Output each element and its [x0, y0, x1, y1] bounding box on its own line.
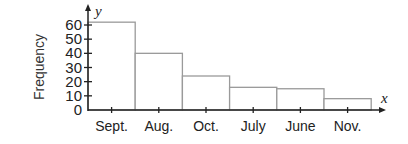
x-tick-label: Nov.	[334, 118, 362, 134]
x-tick-label: Oct.	[193, 118, 219, 134]
x-tick-label: Sept.	[95, 118, 128, 134]
bar-july	[230, 87, 277, 110]
x-tick-label: June	[285, 118, 316, 134]
bar-oct	[182, 76, 229, 110]
y-axis: 0102030405060	[65, 4, 92, 118]
bars-group	[88, 22, 371, 110]
x-axis-variable: x	[380, 90, 388, 106]
bar-sept	[88, 22, 135, 110]
y-axis-variable: y	[93, 3, 102, 19]
bar-aug	[135, 53, 182, 110]
bar-chart: 0102030405060 Sept.Aug.Oct.JulyJuneNov. …	[0, 0, 408, 144]
x-axis: Sept.Aug.Oct.JulyJuneNov.	[88, 107, 386, 134]
x-tick-label: Aug.	[144, 118, 173, 134]
x-tick-label: July	[241, 118, 266, 134]
bar-june	[277, 89, 324, 110]
y-tick-label: 60	[65, 16, 82, 33]
y-axis-title: Frequency	[31, 34, 47, 100]
